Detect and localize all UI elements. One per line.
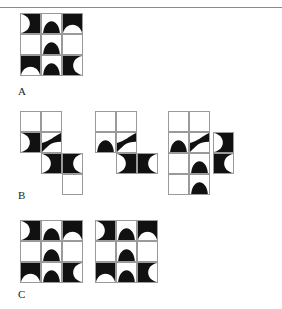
tile-arc-right [95,220,116,241]
tile-arc-left [137,153,158,174]
tile-blank [95,241,116,262]
tile-arc-left [213,153,234,174]
tile-arc-right [20,132,41,153]
tile-blank [116,111,137,132]
tile-blank [20,241,41,262]
tile-hump-up [41,34,62,55]
tile-blank [189,111,210,132]
tile-hump-up [189,174,210,195]
tile-blank [20,34,41,55]
tile-diag-nw-se [116,132,137,153]
figure-c-2 [95,220,158,283]
tile-arc-down [137,220,158,241]
tile-blank [20,111,41,132]
tile-hump-up [116,241,137,262]
tile-hump-up [41,220,62,241]
tile-hump-up [116,262,137,283]
group-label-b: B [18,190,25,201]
tile-hump-up [41,13,62,34]
tile-hump-up [116,220,137,241]
tile-arc-left [62,262,83,283]
figure-b-4 [213,132,234,174]
figure-b-3 [168,111,210,195]
tile-arc-right [116,153,137,174]
tile-blank [62,174,83,195]
group-label-c: C [18,289,25,300]
tile-diag-nw-se [41,132,62,153]
tile-hump-up [95,132,116,153]
tile-arc-right [213,132,234,153]
tile-blank [168,153,189,174]
tile-diag-nw-se [189,132,210,153]
tile-arc-down [95,262,116,283]
tile-blank [137,241,158,262]
tile-arc-down [20,55,41,76]
tile-blank [168,111,189,132]
tile-arc-right [41,153,62,174]
tile-blank [62,241,83,262]
tile-arc-down [62,220,83,241]
tile-arc-right [20,13,41,34]
tile-arc-down [62,13,83,34]
figure-b-2 [95,111,158,174]
tile-blank [62,34,83,55]
tile-arc-left [137,262,158,283]
figure-b-1 [20,111,83,195]
tile-blank [168,174,189,195]
tile-hump-up [41,55,62,76]
tile-arc-left [62,55,83,76]
figure-page: ABC [0,0,282,309]
tile-blank [41,111,62,132]
top-horizontal-rule [0,7,282,8]
tile-hump-up [189,153,210,174]
figure-a-1 [20,13,83,76]
tile-hump-up [168,132,189,153]
tile-hump-up [41,262,62,283]
tile-hump-up [41,241,62,262]
tile-blank [95,111,116,132]
group-label-a: A [18,86,26,97]
figure-c-1 [20,220,83,283]
tile-arc-down [20,262,41,283]
tile-arc-right [20,220,41,241]
tile-arc-left [62,153,83,174]
